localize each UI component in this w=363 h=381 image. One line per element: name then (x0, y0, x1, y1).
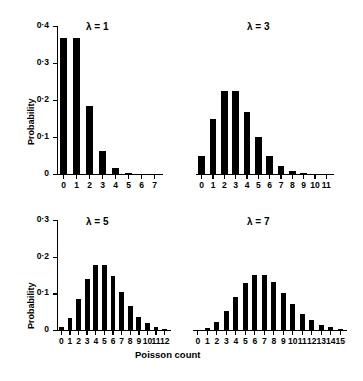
bar (224, 311, 229, 330)
panel-3-x-tick (138, 331, 139, 335)
panel-1-x-tick (115, 175, 116, 179)
panel-4-x-tick (311, 331, 312, 335)
bar (255, 137, 261, 174)
bar (73, 38, 80, 174)
bar (252, 275, 257, 330)
bar (154, 327, 159, 330)
panel-3-y-tick (53, 293, 57, 294)
panel-3-y-axis-line (57, 220, 58, 331)
bar (99, 151, 106, 174)
panel-1-y-tick (53, 26, 57, 27)
bar (290, 304, 295, 330)
panel-1-x-tick-label: 7 (146, 180, 164, 190)
panel-2-x-tick (224, 175, 225, 179)
panel-2-plot-area: 01234567891011 (196, 26, 332, 174)
panel-4-x-tick (254, 331, 255, 335)
panel-4-x-tick (207, 331, 208, 335)
panel-3-x-tick (121, 331, 122, 335)
panel-2-x-tick (212, 175, 213, 179)
panel-2-x-tick (235, 175, 236, 179)
bar (289, 171, 295, 174)
panel-1-plot-area: 00·10·20·30·401234567 (57, 26, 161, 174)
bar (198, 156, 204, 175)
panel-1-x-tick (63, 175, 64, 179)
panel-3-y-tick (53, 220, 57, 221)
panel-1-x-tick (141, 175, 142, 179)
panel-4-x-tick (264, 331, 265, 335)
bar (221, 91, 227, 174)
panel-3-y-tick-label: 0 (21, 324, 49, 334)
panel-3-y-tick (53, 257, 57, 258)
panel-4-x-tick (197, 331, 198, 335)
panel-1-y-tick-label: 0 (21, 168, 49, 178)
panel-2-x-tick (303, 175, 304, 179)
panel-2-x-tick (258, 175, 259, 179)
bar (162, 329, 167, 330)
panel-3-x-tick (95, 331, 96, 335)
panel-3-y-tick-label: 0·2 (21, 251, 49, 261)
panel-3-x-tick (86, 331, 87, 335)
bar (338, 329, 343, 330)
panel-4-x-tick (292, 331, 293, 335)
panel-4-x-tick (330, 331, 331, 335)
panel-2-x-tick (246, 175, 247, 179)
panel-2-x-tick (314, 175, 315, 179)
panel-4-x-tick (283, 331, 284, 335)
bar (319, 325, 324, 330)
panel-lambda-3: λ = 3 01234567891011 (181, 0, 363, 190)
bar (102, 265, 107, 330)
panel-1-x-tick (76, 175, 77, 179)
bar (119, 292, 124, 330)
bar (112, 168, 119, 174)
panel-3-baseline (57, 330, 171, 331)
panel-2-x-tick (292, 175, 293, 179)
panel-4-x-tick (216, 331, 217, 335)
bar (136, 317, 141, 330)
bar (128, 306, 133, 330)
bar (233, 297, 238, 330)
panel-2-x-tick (326, 175, 327, 179)
panel-4-plot-area: 0123456789101112131415 (193, 220, 345, 330)
panel-2-x-tick (201, 175, 202, 179)
bar (243, 283, 248, 330)
bar (278, 166, 284, 174)
bar (309, 320, 314, 330)
bar (205, 328, 210, 330)
panel-3-x-tick (130, 331, 131, 335)
panel-2-baseline (196, 174, 334, 175)
panel-3-x-tick-label: 12 (156, 336, 174, 346)
panel-2-x-tick (269, 175, 270, 179)
bar (68, 318, 73, 330)
panel-1-y-tick-label: 0·4 (21, 20, 49, 30)
panel-2-x-tick-label: 11 (317, 180, 335, 190)
bar (76, 299, 81, 330)
panel-4-x-tick (226, 331, 227, 335)
panel-1-x-tick (154, 175, 155, 179)
panel-1-y-tick (53, 100, 57, 101)
panel-3-x-tick (104, 331, 105, 335)
panel-1-baseline (57, 174, 163, 175)
x-axis-title: Poisson count (135, 349, 200, 360)
bar (111, 276, 116, 330)
poisson-distribution-figure: Probability λ = 1 00·10·20·30·401234567 … (0, 0, 363, 381)
panel-3-x-tick (112, 331, 113, 335)
panel-4-x-tick (321, 331, 322, 335)
bar (125, 173, 132, 174)
bar (86, 106, 93, 174)
panel-lambda-7: λ = 7 0123456789101112131415 (181, 190, 363, 381)
bar (145, 323, 150, 330)
bar (300, 173, 306, 174)
bar (262, 275, 267, 330)
panel-4-x-tick (340, 331, 341, 335)
panel-1-x-tick (89, 175, 90, 179)
bar (328, 327, 333, 330)
bar (281, 293, 286, 330)
bar (232, 91, 238, 174)
panel-lambda-1: Probability λ = 1 00·10·20·30·401234567 (0, 0, 181, 190)
bar (93, 265, 98, 330)
panel-3-x-tick (78, 331, 79, 335)
panel-1-y-axis-line (57, 26, 58, 175)
bar (266, 156, 272, 175)
panel-1-y-tick-label: 0·1 (21, 131, 49, 141)
bar (85, 279, 90, 330)
